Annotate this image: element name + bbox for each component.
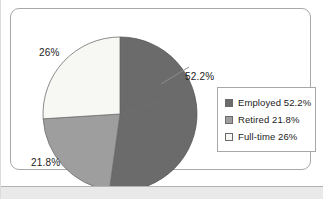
legend-item-retired[interactable]: Retired 21.8%	[225, 111, 309, 128]
page-left-edge	[0, 0, 1, 199]
pie-graphic	[42, 36, 198, 192]
pie-label-employed: 52.2%	[185, 71, 214, 82]
legend-item-employed[interactable]: Employed 52.2%	[225, 94, 309, 111]
legend-swatch-icon-fulltime	[225, 133, 233, 141]
legend-label-retired: Retired 21.8%	[238, 114, 300, 125]
bottom-band	[0, 186, 323, 199]
chart-frame: 52.2% 26% 21.8% Employed 52.2% Retired 2…	[10, 8, 311, 170]
legend-label-fulltime: Full-time 26%	[238, 131, 297, 142]
pie-slice-employed[interactable]	[109, 37, 197, 191]
pie-slice-retired[interactable]	[43, 114, 120, 190]
pie-label-fulltime: 26%	[39, 47, 60, 58]
pie-label-retired: 21.8%	[31, 157, 60, 168]
legend-swatch-icon-retired	[225, 116, 233, 124]
chart-legend: Employed 52.2% Retired 21.8% Full-time 2…	[217, 87, 316, 152]
pie-chart-screenshot: 52.2% 26% 21.8% Employed 52.2% Retired 2…	[0, 0, 323, 199]
legend-label-employed: Employed 52.2%	[238, 97, 311, 108]
legend-item-fulltime[interactable]: Full-time 26%	[225, 128, 309, 145]
pie-svg	[42, 36, 198, 192]
legend-swatch-icon-employed	[225, 99, 233, 107]
